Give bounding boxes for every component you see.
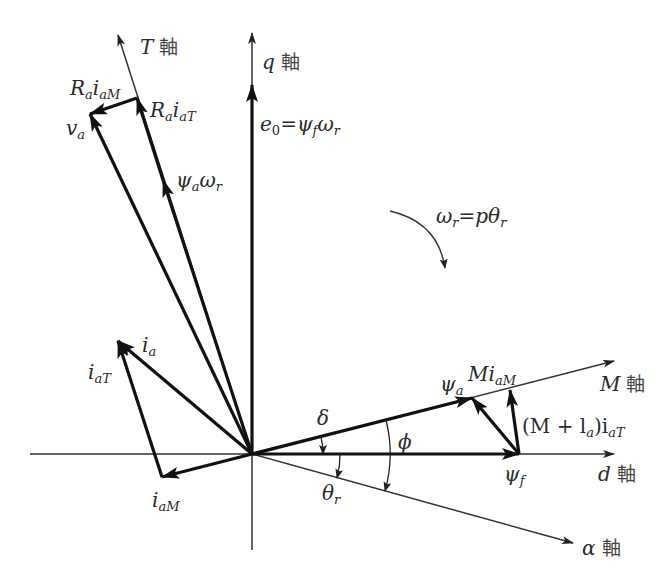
psi-a-omega-r-vector <box>163 180 252 454</box>
i-a-vector <box>118 341 252 454</box>
v-a-vector <box>90 114 252 454</box>
omega-r-equation-label: ωr=pθr <box>436 206 506 229</box>
d-axis-kanji: 軸 <box>617 463 636 485</box>
Mi-aM-label: MiaM <box>468 364 516 387</box>
T-axis-label: T軸 <box>140 37 178 57</box>
M-axis-symbol: M <box>600 372 620 396</box>
theta-r-angle-arc <box>337 454 340 478</box>
vector-diagram: T軸 q軸 e0=ψfωr RaiaM RaiaT va ψaωr ωr=pθr… <box>0 0 672 586</box>
M-plus-la-i-aT-label: (M + la)iaT <box>522 416 625 439</box>
Ra-i-aM-label: RaiaM <box>70 78 120 101</box>
T-axis-kanji: 軸 <box>159 36 178 58</box>
i-aM-vector <box>162 454 252 477</box>
q-axis-kanji: 軸 <box>281 51 300 73</box>
d-axis-symbol: d <box>598 462 611 486</box>
delta-label: δ <box>317 408 329 428</box>
psi-f-label: ψf <box>504 464 525 487</box>
theta-r-label: θr <box>322 483 340 506</box>
q-axis-symbol: q <box>262 50 275 74</box>
v-a-label: va <box>66 118 85 141</box>
T-axis-symbol: T <box>140 35 153 59</box>
psi-a-omega-r-label: ψaωr <box>176 170 222 193</box>
M-axis-label: M軸 <box>600 374 645 394</box>
M-axis-kanji: 軸 <box>626 373 645 395</box>
alpha-axis-line <box>252 454 573 543</box>
alpha-axis-symbol: α <box>582 536 596 560</box>
i-a-label: ia <box>142 335 156 358</box>
psi-a-label: ψa <box>440 374 463 397</box>
phi-label: ϕ <box>398 432 412 452</box>
psi-a-vector <box>252 398 472 454</box>
delta-angle-arc <box>321 437 323 454</box>
d-axis-label: d軸 <box>598 464 636 484</box>
i-aT-label: iaT <box>88 362 111 385</box>
alpha-axis-label: α軸 <box>582 538 621 558</box>
alpha-axis-kanji: 軸 <box>602 537 621 559</box>
Ra-i-aT-label: RaiaT <box>150 100 196 123</box>
e0-label: e0=ψfωr <box>260 114 340 137</box>
q-axis-label: q軸 <box>262 52 300 72</box>
i-aM-label: iaM <box>152 490 179 513</box>
